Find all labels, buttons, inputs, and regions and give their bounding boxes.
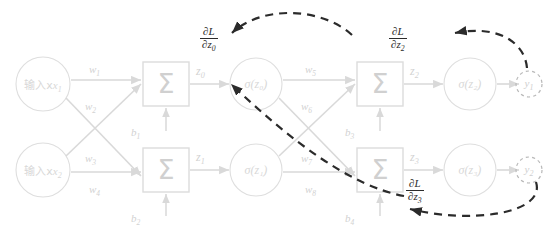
bias-label-b2: b2 [131,212,140,227]
sum-symbol-2: Σ [143,154,189,185]
activation-label-sz2: σ(z₂) [445,77,495,92]
input-label-x2: 输入xx2 [18,162,68,180]
weight-label-w4: w4 [89,183,100,198]
preactivation-label-z1: z1 [196,150,205,166]
weight-label-w5: w5 [305,63,316,78]
gradient-label-dLdz0: ∂L ∂z0 [200,26,218,53]
sum-symbol-3: Σ [357,68,403,99]
input-label-x1: 输入xx1 [18,76,68,94]
grad-path-y2-to-dLdz3 [410,182,537,216]
weight-label-w3: w3 [85,152,96,167]
weight-label-w7: w7 [301,152,312,167]
activation-label-sz3: σ(z₃) [445,163,495,178]
backpropagation-layer [0,0,552,232]
sum-symbol-1: Σ [143,68,189,99]
output-label-y1: y1 [514,77,544,92]
weight-label-w2: w2 [85,100,96,115]
sum-symbol-4: Σ [357,154,403,185]
gradient-label-dLdz3: ∂L ∂z3 [406,178,424,205]
grad-path-dLdz2-to-dLdz0 [232,13,352,35]
bias-label-b3: b3 [345,126,354,141]
preactivation-label-z2: z2 [410,64,419,80]
output-label-y2: y2 [514,163,544,178]
grad-path-y1-to-dLdz2 [455,31,527,68]
weight-label-w6: w6 [301,100,312,115]
preactivation-label-z3: z3 [410,150,419,166]
weight-label-w8: w8 [305,183,316,198]
neural-network-diagram: 输入xx1 输入xx2 Σ Σ Σ Σ w1 w2 w3 w4 w5 w6 w7… [0,0,552,232]
activation-label-sz0: σ(z₀) [231,77,281,92]
bias-label-b4: b4 [345,212,354,227]
activation-label-sz1: σ(z₁) [231,163,281,178]
bias-label-b1: b1 [131,126,140,141]
preactivation-label-z0: z0 [196,64,205,80]
gradient-label-dLdz2: ∂L ∂z2 [389,26,407,53]
weight-label-w1: w1 [89,63,100,78]
